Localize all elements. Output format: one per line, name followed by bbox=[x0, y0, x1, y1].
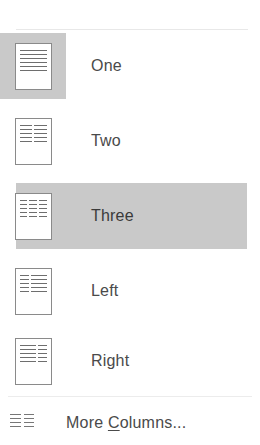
menu-top-separator bbox=[16, 29, 248, 30]
two-column-page-icon bbox=[15, 118, 52, 165]
menu-item-two[interactable]: Two bbox=[0, 108, 260, 174]
menu-item-more-columns-label: More Columns... bbox=[66, 414, 186, 432]
menu-bottom-separator bbox=[8, 396, 252, 397]
menu-item-left-label: Left bbox=[91, 282, 119, 300]
three-column-page-icon bbox=[15, 193, 52, 240]
columns-grid-icon bbox=[10, 414, 34, 432]
two-column-page-icon-wrap bbox=[0, 108, 66, 174]
one-column-page-icon-wrap bbox=[0, 33, 66, 99]
menu-item-more-columns[interactable]: More Columns... bbox=[0, 400, 260, 445]
menu-item-left[interactable]: Left bbox=[0, 258, 260, 324]
one-column-page-icon bbox=[15, 43, 52, 90]
more-columns-accelerator: C bbox=[108, 414, 120, 431]
right-column-page-icon bbox=[15, 338, 52, 385]
left-column-page-icon bbox=[15, 268, 52, 315]
left-column-page-icon-wrap bbox=[0, 258, 66, 324]
more-columns-label-prefix: More bbox=[66, 414, 108, 431]
columns-dropdown-menu: One Two bbox=[0, 0, 260, 445]
three-column-page-icon-wrap bbox=[0, 183, 66, 249]
menu-item-three-label: Three bbox=[91, 207, 134, 225]
right-column-page-icon-wrap bbox=[0, 328, 66, 394]
columns-grid-icon-wrap bbox=[0, 414, 44, 432]
more-columns-label-suffix: olumns... bbox=[120, 414, 187, 431]
menu-item-right[interactable]: Right bbox=[0, 328, 260, 394]
menu-item-two-label: Two bbox=[91, 132, 121, 150]
menu-item-right-label: Right bbox=[91, 352, 129, 370]
menu-item-three[interactable]: Three bbox=[0, 183, 260, 249]
menu-item-one-label: One bbox=[91, 57, 122, 75]
menu-item-one[interactable]: One bbox=[0, 33, 260, 99]
